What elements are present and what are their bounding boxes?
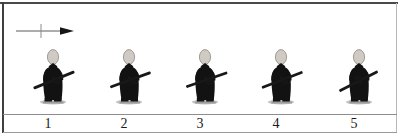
figure-label-3: 3 [185,116,215,132]
figure-label-4: 4 [261,116,291,132]
figure-label-5: 5 [339,116,369,132]
figure-strip-panel: 1 2 3 4 5 [0,0,403,137]
walking-figure-1 [24,49,88,115]
figure-label-1: 1 [33,116,63,132]
walking-figure-4 [252,49,316,115]
walking-figure-2 [100,49,164,115]
walking-figure-5 [328,49,392,115]
panel-border-bottom [3,132,397,133]
figures-row [4,4,396,115]
figure-label-2: 2 [109,116,139,132]
walking-figure-3 [176,49,240,115]
